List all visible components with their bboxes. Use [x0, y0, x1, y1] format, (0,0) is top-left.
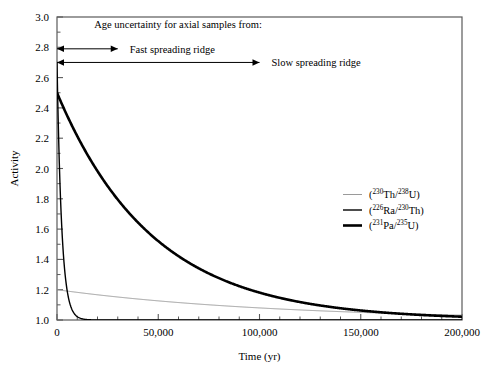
- x-tick-label: 100,000: [242, 326, 278, 338]
- y-tick-label: 2.8: [35, 41, 49, 53]
- x-tick-label: 150,000: [343, 326, 379, 338]
- legend-label-0: (230Th/238U): [369, 188, 420, 201]
- y-tick-label: 2.0: [35, 163, 49, 175]
- slow-ridge-arrow-head-left: [57, 59, 64, 65]
- slow-ridge-arrow-head-right: [253, 59, 260, 65]
- x-tick-label: 50,000: [143, 326, 174, 338]
- annotation-header: Age uncertainty for axial samples from:: [94, 19, 262, 30]
- activity-vs-time-chart: 1.01.21.41.61.82.02.22.42.62.83.0050,000…: [0, 0, 487, 377]
- legend-label-1: (226Ra/230Th): [369, 204, 424, 217]
- y-tick-label: 1.6: [35, 223, 49, 235]
- y-axis-title: Activity: [8, 150, 20, 187]
- x-axis-title: Time (yr): [238, 350, 280, 363]
- fast-ridge-arrow-head-right: [111, 46, 118, 52]
- x-tick-label: 0: [54, 326, 60, 338]
- y-tick-label: 1.2: [35, 284, 49, 296]
- y-tick-label: 2.2: [35, 132, 49, 144]
- fast-ridge-arrow-head-left: [57, 46, 64, 52]
- legend-label-2: (231Pa/235U): [369, 219, 419, 232]
- y-tick-label: 2.4: [35, 102, 49, 114]
- y-tick-label: 1.4: [35, 253, 49, 265]
- fast-ridge-label: Fast spreading ridge: [130, 44, 215, 55]
- slow-ridge-label: Slow spreading ridge: [272, 57, 362, 68]
- x-tick-label: 200,000: [444, 326, 480, 338]
- y-tick-label: 3.0: [35, 11, 49, 23]
- chart-figure: 1.01.21.41.61.82.02.22.42.62.83.0050,000…: [0, 0, 487, 377]
- y-tick-label: 1.0: [35, 314, 49, 326]
- y-tick-label: 1.8: [35, 193, 49, 205]
- y-tick-label: 2.6: [35, 72, 49, 84]
